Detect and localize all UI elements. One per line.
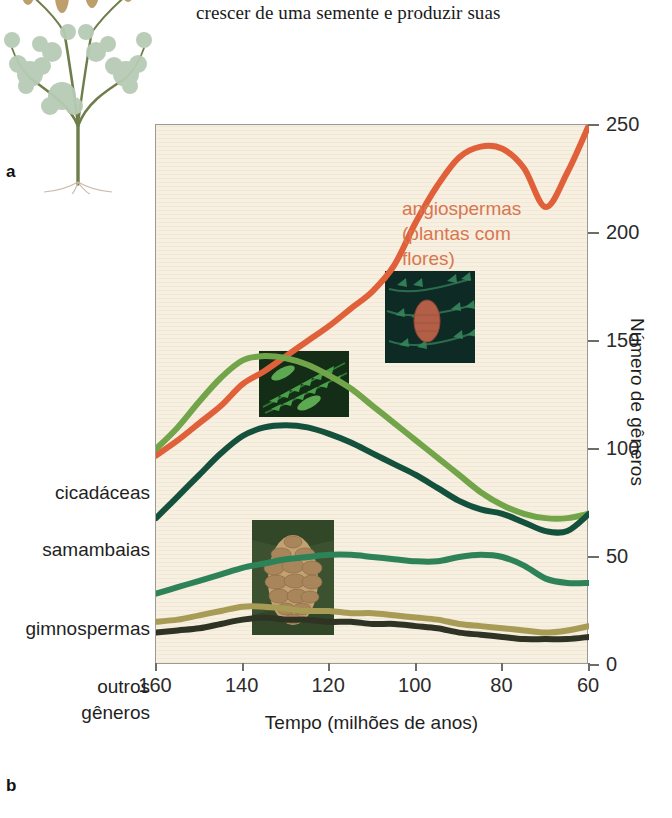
body-text: crescer de uma semente e produzir suas: [196, 2, 666, 24]
x-tick-mark: [328, 663, 330, 671]
y-tick-mark: [588, 124, 599, 126]
y-tick-mark: [588, 556, 599, 558]
series-line-gimnospermas: [156, 555, 589, 594]
annotation-line-3: flores): [402, 246, 521, 271]
y-tick-label: 250: [606, 113, 639, 136]
angiospermas-annotation: angiospermas (plantas com flores): [402, 196, 521, 271]
x-tick-mark: [415, 663, 417, 671]
series-label-gimnospermas: gimnospermas: [25, 618, 150, 640]
x-tick-mark: [588, 663, 590, 671]
x-tick-label: 140: [225, 674, 258, 697]
y-tick-mark: [588, 448, 599, 450]
series-label-cicadaceas: cicadáceas: [55, 482, 150, 504]
x-tick-label: 100: [398, 674, 431, 697]
x-tick-mark: [155, 663, 157, 671]
x-tick-label: 120: [312, 674, 345, 697]
chart-plot-area: [155, 124, 588, 664]
y-tick-label: 50: [606, 545, 628, 568]
x-axis-title: Tempo (milhões de anos): [155, 712, 588, 734]
x-tick-mark: [501, 663, 503, 671]
chart-curves: [156, 125, 589, 665]
plant-illustration: [0, 0, 156, 194]
y-axis-title: Número de gêneros: [626, 318, 648, 486]
panel-b-label: b: [6, 776, 16, 796]
y-tick-label: 0: [606, 653, 617, 676]
y-tick-mark: [588, 340, 599, 342]
annotation-line-2: (plantas com: [402, 221, 521, 246]
annotation-line-1: angiospermas: [402, 196, 521, 221]
x-axis: 1601401201008060: [155, 664, 588, 704]
panel-a-label: a: [6, 162, 15, 182]
x-tick-label: 60: [577, 674, 599, 697]
x-tick-mark: [242, 663, 244, 671]
series-label-samambaias: samambaias: [42, 539, 150, 561]
series-line-outros: [156, 606, 589, 632]
x-tick-label: 80: [490, 674, 512, 697]
y-tick-mark: [588, 232, 599, 234]
series-label-outros: outros: [97, 676, 150, 698]
y-tick-label: 200: [606, 221, 639, 244]
series-line-cicadáceas: [156, 356, 589, 519]
series-label-generos: gêneros: [81, 702, 150, 724]
